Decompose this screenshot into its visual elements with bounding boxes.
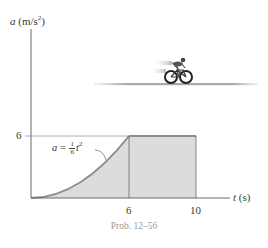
curve-label-eq: =: [60, 142, 66, 153]
x-tick-6: 6: [126, 205, 132, 216]
y-tick-6: 6: [16, 130, 22, 141]
curve-label-fraction: 16: [69, 141, 75, 156]
ground-line: [94, 83, 258, 85]
x-axis-label: t (s): [233, 192, 250, 203]
curve-label-lhs: a: [52, 142, 57, 153]
curve-label-leader: [95, 150, 106, 160]
x-axis-var: t: [233, 191, 236, 203]
y-axis-var: a: [10, 15, 16, 27]
y-axis-label: a (m/s2): [10, 15, 45, 27]
bicyclist-icon: [150, 58, 192, 83]
y-axis-close: ): [41, 15, 45, 27]
figure-caption: Prob. 12–56: [0, 221, 268, 231]
curve-label-exp: 2: [79, 140, 83, 148]
x-tick-10: 10: [190, 205, 201, 216]
x-axis-unit: (s): [239, 191, 251, 203]
diagram-canvas: [0, 0, 268, 248]
curve-label: a = 16t2: [52, 141, 82, 156]
y-axis-unit: (m/s: [18, 15, 38, 27]
